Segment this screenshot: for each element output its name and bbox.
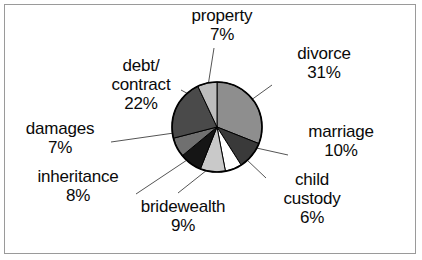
slice-label-divorce: divorce 31% bbox=[272, 44, 376, 82]
slice-label-debt-contract-line1: debt/ bbox=[86, 56, 196, 75]
slice-label-property-percent: 7% bbox=[164, 25, 280, 44]
leader-line-property bbox=[208, 48, 214, 86]
pie-chart-figure: property 7% divorce 31% debt/ contract 2… bbox=[0, 0, 422, 260]
slice-label-divorce-name: divorce bbox=[272, 44, 376, 63]
slice-label-damages: damages 7% bbox=[6, 119, 114, 157]
slice-label-debt-contract: debt/ contract 22% bbox=[86, 56, 196, 113]
slice-label-property: property 7% bbox=[164, 6, 280, 44]
slice-label-property-name: property bbox=[164, 6, 280, 25]
slice-label-marriage-percent: 10% bbox=[286, 141, 396, 160]
slice-label-debt-contract-line2: contract bbox=[86, 75, 196, 94]
slice-label-bridewealth-percent: 9% bbox=[118, 216, 248, 235]
slice-label-child-custody-line2: custody bbox=[262, 189, 362, 208]
slice-label-damages-percent: 7% bbox=[6, 138, 114, 157]
slice-label-divorce-percent: 31% bbox=[272, 63, 376, 82]
slice-label-bridewealth-name: bridewealth bbox=[118, 197, 248, 216]
slice-label-child-custody-line1: child bbox=[262, 170, 362, 189]
slice-label-marriage-name: marriage bbox=[286, 122, 396, 141]
slice-label-child-custody-percent: 6% bbox=[262, 208, 362, 227]
leader-line-inheritance bbox=[136, 160, 187, 194]
slice-label-marriage: marriage 10% bbox=[286, 122, 396, 160]
leader-line-bridewealth bbox=[178, 170, 207, 193]
slice-label-child-custody: child custody 6% bbox=[262, 170, 362, 227]
slice-label-inheritance-name: inheritance bbox=[14, 167, 142, 186]
slice-label-debt-contract-percent: 22% bbox=[86, 94, 196, 113]
leader-line-damages bbox=[111, 133, 174, 142]
slice-label-damages-name: damages bbox=[6, 119, 114, 138]
slice-label-bridewealth: bridewealth 9% bbox=[118, 197, 248, 235]
